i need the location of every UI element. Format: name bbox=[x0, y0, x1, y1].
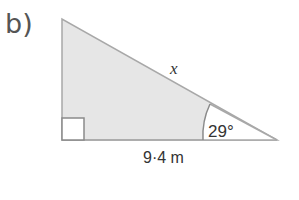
right-angle-marker-icon bbox=[62, 118, 84, 140]
hypotenuse-label: x bbox=[169, 59, 178, 78]
angle-label: 29° bbox=[208, 122, 234, 141]
base-length-label: 9·4 m bbox=[143, 149, 184, 166]
triangle-diagram: x 29° 9·4 m bbox=[0, 0, 299, 200]
